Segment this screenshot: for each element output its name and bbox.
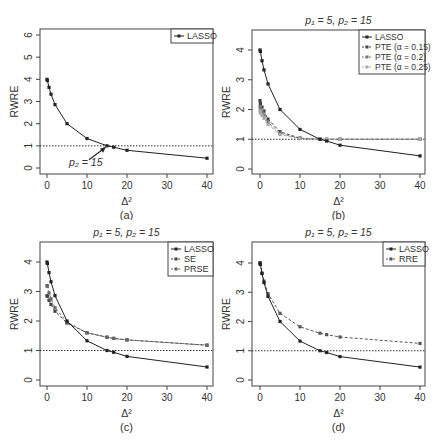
- legend-marker: [366, 66, 369, 69]
- chart-svg-c: p₁ = 5, p₂ = 1501234010203040RWREΔ²(c)LA…: [0, 220, 220, 447]
- data-point: [53, 103, 56, 106]
- x-tick-label: 0: [257, 392, 263, 403]
- x-tick-label: 20: [121, 392, 133, 403]
- chart-panel-b: p₁ = 5, p₂ = 1501234010203040RWREΔ²(b)LA…: [220, 0, 440, 220]
- data-point: [46, 262, 49, 265]
- data-point: [125, 338, 128, 341]
- data-point: [85, 339, 88, 342]
- series-line-lasso: [47, 79, 207, 158]
- x-tick-label: 0: [44, 180, 50, 191]
- chart-panel-c: p₁ = 5, p₂ = 1501234010203040RWREΔ²(c)LA…: [0, 220, 220, 447]
- y-tick-label: 0: [235, 166, 246, 172]
- series-line-rre: [260, 263, 420, 343]
- series-line-pte-0-15-: [260, 101, 420, 140]
- y-tick-label: 6: [23, 32, 34, 38]
- legend-marker: [366, 46, 369, 49]
- legend-entry: RRE: [399, 254, 418, 264]
- data-point: [278, 133, 281, 136]
- legend-entry: PTE (α = 0.2): [375, 52, 426, 62]
- y-tick-label: 3: [235, 77, 246, 83]
- data-point: [338, 144, 341, 147]
- data-point: [258, 99, 261, 102]
- x-tick-label: 40: [414, 392, 426, 403]
- data-point: [260, 272, 263, 275]
- x-tick-label: 40: [414, 180, 426, 191]
- x-tick-label: 40: [201, 392, 213, 403]
- data-point: [46, 295, 49, 298]
- chart-svg-d: p₁ = 5, p₂ = 1501234010203040RWREΔ²(d)LA…: [220, 220, 440, 447]
- data-point: [278, 312, 281, 315]
- legend-marker: [178, 35, 181, 38]
- data-point: [318, 332, 321, 335]
- y-tick-label: 1: [23, 143, 34, 149]
- series-line-pte-0-25-: [260, 111, 420, 139]
- x-tick-label: 0: [257, 180, 263, 191]
- x-axis-label: Δ²: [121, 195, 132, 207]
- data-point: [46, 285, 49, 288]
- data-point: [125, 149, 128, 152]
- data-point: [112, 146, 115, 149]
- data-point: [47, 86, 50, 89]
- x-tick-label: 30: [374, 392, 386, 403]
- y-tick-label: 3: [235, 289, 246, 295]
- data-point: [298, 339, 301, 342]
- series-line-se: [47, 296, 207, 346]
- data-point: [47, 271, 50, 274]
- data-point: [260, 59, 263, 62]
- legend-marker: [366, 36, 369, 39]
- x-tick-label: 10: [81, 180, 93, 191]
- data-point: [259, 50, 262, 53]
- data-point: [53, 294, 56, 297]
- legend-entry: LASSO: [399, 244, 429, 254]
- y-axis-label: RWRE: [220, 86, 232, 118]
- data-point: [125, 355, 128, 358]
- series-line-lasso: [260, 263, 420, 367]
- x-axis-label: Δ²: [121, 407, 132, 419]
- data-point: [65, 122, 68, 125]
- data-point: [318, 349, 321, 352]
- y-axis-label: RWRE: [8, 298, 20, 330]
- data-point: [298, 325, 301, 328]
- data-point: [266, 295, 269, 298]
- series-line-prse: [47, 286, 207, 346]
- data-point: [338, 335, 341, 338]
- data-point: [46, 79, 49, 82]
- y-tick-label: 3: [23, 288, 34, 294]
- x-tick-label: 0: [44, 392, 50, 403]
- data-point: [49, 280, 52, 283]
- data-point: [260, 114, 263, 117]
- x-tick-label: 20: [121, 180, 133, 191]
- data-point: [418, 154, 421, 157]
- data-point: [259, 102, 262, 105]
- data-point: [262, 117, 265, 120]
- y-tick-label: 2: [235, 318, 246, 324]
- data-point: [325, 139, 328, 142]
- y-tick-label: 4: [23, 259, 34, 265]
- x-tick-label: 10: [81, 392, 93, 403]
- data-point: [105, 349, 108, 352]
- data-point: [418, 366, 421, 369]
- y-tick-label: 4: [235, 260, 246, 266]
- y-tick-label: 2: [23, 318, 34, 324]
- data-point: [262, 281, 265, 284]
- y-tick-label: 1: [23, 347, 34, 353]
- legend-marker: [390, 248, 393, 251]
- data-point: [85, 331, 88, 334]
- data-point: [338, 138, 341, 141]
- data-point: [259, 263, 262, 266]
- y-tick-label: 0: [23, 165, 34, 171]
- x-tick-label: 20: [334, 392, 346, 403]
- y-tick-label: 3: [23, 98, 34, 104]
- plot-frame: [40, 29, 213, 174]
- y-tick-label: 2: [23, 120, 34, 126]
- x-tick-label: 20: [334, 180, 346, 191]
- data-point: [112, 351, 115, 354]
- x-tick-label: 10: [294, 392, 306, 403]
- data-point: [338, 355, 341, 358]
- chart-svg-a: 0123456010203040RWREΔ²(a)p₂ = 15LASSO: [0, 0, 220, 220]
- data-point: [65, 319, 68, 322]
- data-point: [49, 93, 52, 96]
- data-point: [266, 82, 269, 85]
- data-point: [53, 306, 56, 309]
- y-tick-label: 5: [23, 54, 34, 60]
